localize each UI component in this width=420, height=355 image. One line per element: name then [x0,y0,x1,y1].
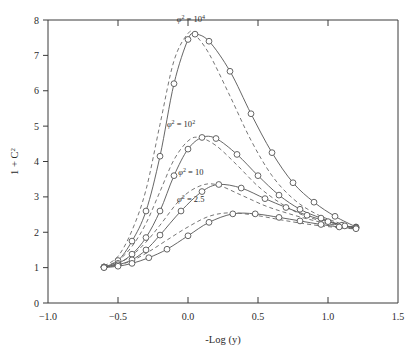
data-point-marker [171,81,177,87]
x-axis-tick-label: −0.5 [109,311,127,322]
data-point-marker [290,180,296,186]
y-axis-tick-label: 1 [34,262,39,273]
data-point-marker [143,247,149,253]
chart-canvas: 012345678−1.0−0.50.00.51.01.5 φ2 = 104φ2… [0,0,420,355]
data-point-marker [336,224,342,230]
data-point-marker [157,208,163,214]
x-axis-tick-label: 1.0 [322,311,335,322]
data-point-marker [129,238,135,244]
series-annotation-label: φ2 = 10 [178,167,203,177]
y-axis-tick-label: 8 [34,15,39,26]
data-point-marker [129,260,135,266]
data-point-marker [311,199,317,205]
data-point-marker [230,211,236,217]
series-annotation-label: φ2 = 102 [167,119,195,129]
data-point-marker [342,223,348,229]
data-point-marker [318,215,324,221]
data-point-marker [304,212,310,218]
data-point-marker [269,150,275,156]
data-point-marker [185,37,191,43]
data-point-marker [325,219,331,225]
data-point-marker [146,255,152,261]
data-point-marker [227,68,233,74]
data-point-marker [238,185,244,191]
y-axis-tick-label: 0 [34,298,39,309]
series-annotation-label: φ2 = 104 [177,14,205,24]
y-axis-tick-label: 6 [34,85,39,96]
axes-group: 012345678−1.0−0.50.00.51.01.5 [34,15,404,323]
x-axis-title: -Log (y) [205,334,241,346]
y-axis-tick-label: 4 [34,156,39,167]
y-axis-tick-label: 7 [34,50,39,61]
data-point-marker [171,173,177,179]
y-axis-tick-label: 3 [34,191,39,202]
y-axis-tick-label: 5 [34,121,39,132]
series-annotation-label: φ2 = 2.5 [177,194,204,204]
y-axis-title: 1 + C2 [9,148,21,175]
data-point-marker [115,263,121,269]
data-point-marker [157,153,163,159]
data-point-marker [248,111,254,117]
data-point-marker [234,152,240,158]
data-point-marker [353,226,359,232]
data-point-marker [206,219,212,225]
data-point-marker [318,222,324,228]
x-axis-tick-label: −1.0 [39,311,57,322]
data-point-marker [255,173,261,179]
data-point-marker [143,208,149,214]
data-point-marker [276,192,282,198]
data-point-marker [297,206,303,212]
data-point-marker [192,31,198,37]
data-point-marker [178,208,184,214]
data-point-marker [283,205,289,211]
data-point-marker [252,211,258,217]
plot-frame [48,20,398,303]
data-point-marker [185,233,191,239]
x-axis-tick-label: 0.5 [252,311,265,322]
data-point-marker [213,136,219,142]
data-point-marker [262,196,268,202]
data-point-marker [101,265,107,271]
data-series-line [104,136,356,267]
data-point-marker [206,38,212,44]
data-point-marker [164,246,170,252]
data-point-marker [143,235,149,241]
x-axis-tick-label: 0.0 [182,311,195,322]
data-point-marker [185,146,191,152]
data-point-marker [276,214,282,220]
data-point-marker [332,213,338,219]
data-point-marker [157,232,163,238]
data-point-marker [216,182,222,188]
data-point-marker [297,218,303,224]
y-axis-tick-label: 2 [34,227,39,238]
chart-figure: 012345678−1.0−0.50.00.51.01.5 φ2 = 104φ2… [0,0,420,355]
curves-group [104,31,356,268]
x-axis-tick-label: 1.5 [392,311,405,322]
data-point-marker [129,251,135,257]
data-point-marker [199,135,205,141]
